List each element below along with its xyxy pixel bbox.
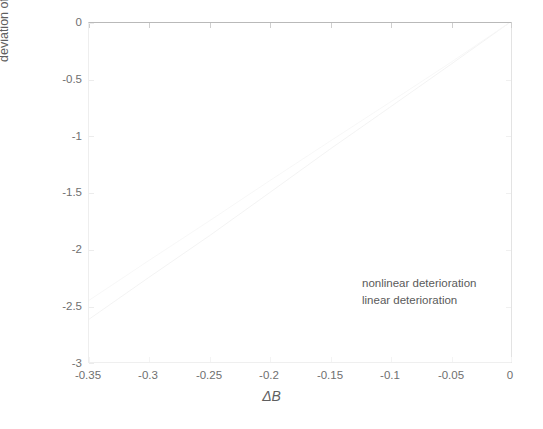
legend-swatch-linear-deterioration (336, 300, 362, 301)
y-tick-left-6 (89, 363, 94, 364)
y-axis-title-prefix: deviation of pressure ratio (0, 0, 11, 62)
chart-figure: deviation of pressure ratio δπC(%) 0 -0.… (0, 0, 543, 429)
x-tick-top-4 (331, 23, 332, 28)
x-tick-bottom-4 (331, 357, 332, 362)
y-tick-label-4: -2 (40, 243, 82, 255)
y-tick-left-1 (89, 80, 94, 81)
x-axis-title-text: ΔB (262, 388, 281, 404)
data-series-layer (89, 23, 511, 362)
y-tick-right-3 (506, 193, 511, 194)
y-axis-title: deviation of pressure ratio δπC(%) (0, 0, 13, 62)
x-tick-label-5: -0.1 (380, 369, 400, 381)
y-tick-label-2: -1 (40, 130, 82, 142)
legend-label-linear-deterioration: linear deterioration (362, 292, 457, 309)
x-tick-bottom-1 (149, 357, 150, 362)
x-tick-bottom-5 (391, 357, 392, 362)
y-tick-label-1: -0.5 (40, 73, 82, 85)
y-tick-right-2 (506, 136, 511, 137)
legend-item-nonlinear-deterioration: nonlinear deterioration (336, 275, 476, 292)
legend: nonlinear deterioration linear deteriora… (336, 275, 476, 309)
x-tick-label-1: -0.3 (138, 369, 158, 381)
x-tick-label-7: 0 (507, 369, 513, 381)
plot-area: nonlinear deterioration linear deteriora… (89, 23, 511, 362)
x-tick-top-5 (391, 23, 392, 28)
legend-item-linear-deterioration: linear deterioration (336, 292, 476, 309)
x-tick-top-6 (452, 23, 453, 28)
x-tick-bottom-3 (270, 357, 271, 362)
x-tick-label-6: -0.05 (438, 369, 464, 381)
series-line-linear-deterioration (89, 23, 509, 300)
x-tick-top-1 (149, 23, 150, 28)
y-tick-left-2 (89, 136, 94, 137)
y-tick-right-4 (506, 250, 511, 251)
y-tick-label-5: -2.5 (40, 300, 82, 312)
x-tick-bottom-2 (210, 357, 211, 362)
legend-swatch-nonlinear-deterioration (336, 283, 362, 284)
x-tick-label-2: -0.25 (196, 369, 222, 381)
y-tick-right-1 (506, 80, 511, 81)
x-tick-top-3 (270, 23, 271, 28)
x-tick-label-4: -0.15 (317, 369, 343, 381)
y-tick-left-0 (89, 23, 94, 24)
x-tick-bottom-0 (89, 357, 90, 362)
x-tick-bottom-7 (511, 357, 512, 362)
y-tick-label-3: -1.5 (40, 186, 82, 198)
x-axis-title: ΔB (0, 388, 543, 404)
x-tick-label-3: -0.2 (259, 369, 279, 381)
y-tick-left-4 (89, 250, 94, 251)
x-tick-bottom-6 (452, 357, 453, 362)
x-tick-top-7 (511, 23, 512, 28)
y-tick-right-5 (506, 307, 511, 308)
y-tick-label-6: -3 (40, 357, 82, 369)
plot-area-frame: nonlinear deterioration linear deteriora… (88, 22, 512, 363)
y-tick-label-0: 0 (40, 16, 82, 28)
y-tick-left-5 (89, 307, 94, 308)
x-tick-label-0: -0.35 (75, 369, 101, 381)
legend-label-nonlinear-deterioration: nonlinear deterioration (362, 275, 476, 292)
y-tick-left-3 (89, 193, 94, 194)
x-tick-top-2 (210, 23, 211, 28)
